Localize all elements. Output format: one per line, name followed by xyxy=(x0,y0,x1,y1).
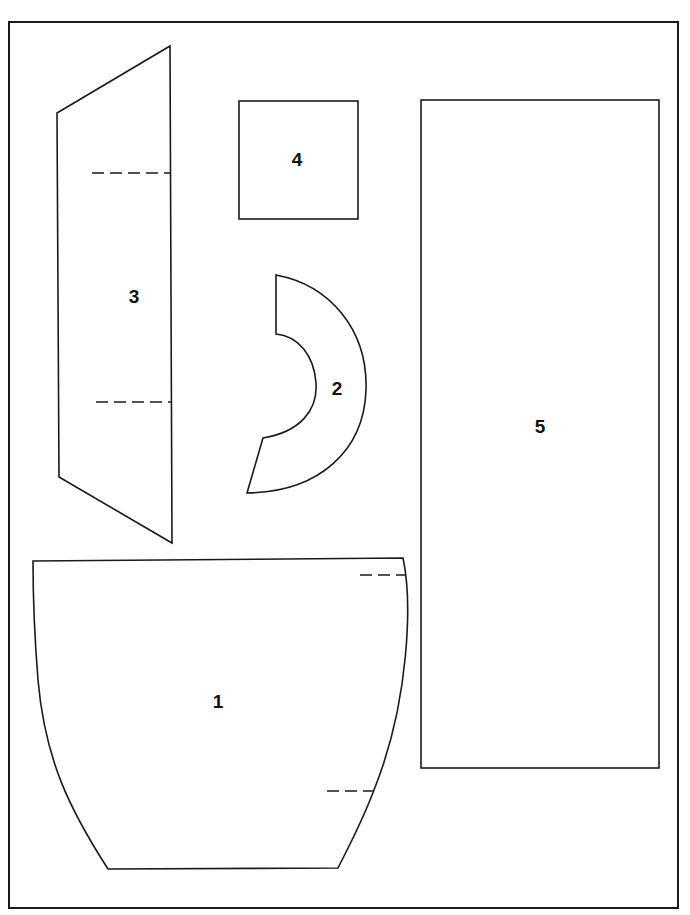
piece-1 xyxy=(33,558,408,869)
piece-label-4: 4 xyxy=(292,150,303,169)
piece-1-outline xyxy=(33,558,408,869)
piece-3-outline xyxy=(57,46,172,543)
pattern-sheet xyxy=(0,0,690,915)
piece-label-1: 1 xyxy=(213,692,224,711)
piece-2-outline xyxy=(247,275,366,493)
piece-label-2: 2 xyxy=(332,379,343,398)
piece-3 xyxy=(57,46,172,543)
piece-label-3: 3 xyxy=(129,287,140,306)
piece-label-5: 5 xyxy=(535,417,546,436)
